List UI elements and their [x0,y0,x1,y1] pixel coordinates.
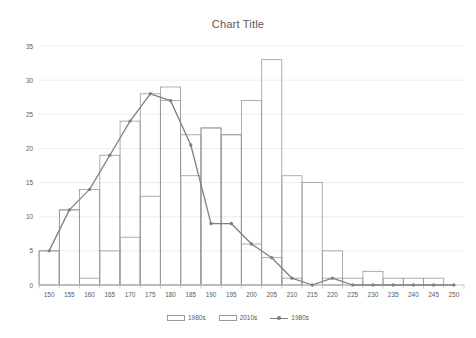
bar-1980s-175 [140,196,160,285]
bar-1980s-160 [80,278,100,285]
line-marker-235 [391,283,394,286]
x-axis-tick-label: 200 [246,291,257,298]
x-axis-tick-label: 170 [125,291,136,298]
bar-2010s-150 [39,251,59,285]
line-marker-165 [108,154,111,157]
y-axis-tick-label: 0 [29,282,33,289]
line-marker-175 [149,92,152,95]
line-marker-245 [432,283,435,286]
x-axis-tick-label: 230 [368,291,379,298]
chart-legend: 1980s 2010s 1980s [0,314,476,322]
x-axis-tick-label: 160 [84,291,95,298]
line-marker-215 [311,283,314,286]
bar-2010s-190 [201,128,221,285]
line-marker-150 [47,249,50,252]
bar-1980s-200 [241,244,261,285]
line-marker-190 [209,222,212,225]
y-axis-tick-label: 10 [26,213,34,220]
bar-2010s-195 [221,135,241,285]
line-marker-160 [88,188,91,191]
bar-2010s-230 [363,271,383,285]
line-series-1980s [49,94,454,285]
legend-item-1980s-bar[interactable]: 1980s [167,314,206,322]
legend-item-label: 1980s [291,314,309,322]
y-axis-tick-label: 25 [26,111,34,118]
bar-2010s-200 [241,101,261,285]
bar-2010s-185 [181,135,201,285]
bar-2010s-210 [282,176,302,285]
bar-1980s-195 [221,135,241,285]
chart-plot-area: 0510152025303515015516016517017518018519… [0,0,476,338]
y-axis-tick-label: 30 [26,77,34,84]
bar-1980s-155 [59,210,79,285]
bar-2010s-170 [120,121,140,285]
line-marker-225 [351,283,354,286]
x-axis-tick-label: 235 [388,291,399,298]
legend-item-label: 2010s [240,314,258,322]
x-axis-tick-label: 175 [145,291,156,298]
bar-1980s-190 [201,128,221,285]
x-axis-tick-label: 225 [347,291,358,298]
x-axis-tick-label: 220 [327,291,338,298]
x-axis-tick-label: 150 [44,291,55,298]
legend-swatch-icon [219,315,237,321]
line-marker-210 [290,276,293,279]
x-axis-tick-label: 250 [449,291,460,298]
x-axis-tick-label: 190 [206,291,217,298]
line-marker-180 [169,99,172,102]
legend-line-marker-icon [270,315,288,321]
x-axis-tick-label: 240 [408,291,419,298]
bar-1980s-180 [161,101,181,285]
y-axis-tick-label: 35 [26,43,34,50]
bar-2010s-160 [80,189,100,285]
bar-2010s-175 [140,94,160,285]
line-marker-240 [412,283,415,286]
line-marker-170 [128,119,131,122]
line-marker-155 [68,208,71,211]
line-marker-220 [331,276,334,279]
y-axis-tick-label: 15 [26,179,34,186]
line-marker-230 [371,283,374,286]
line-marker-250 [452,283,455,286]
x-axis-tick-label: 210 [287,291,298,298]
bar-1980s-185 [181,176,201,285]
line-marker-205 [270,256,273,259]
bar-1980s-165 [100,251,120,285]
y-axis-tick-label: 5 [29,247,33,254]
x-axis-tick-label: 245 [428,291,439,298]
bar-1980s-170 [120,237,140,285]
line-marker-185 [189,143,192,146]
x-axis-tick-label: 165 [104,291,115,298]
x-axis-tick-label: 185 [185,291,196,298]
x-axis-tick-label: 205 [266,291,277,298]
bar-2010s-215 [302,183,322,285]
x-axis-tick-label: 195 [226,291,237,298]
x-axis-tick-label: 215 [307,291,318,298]
legend-item-2010s-bar[interactable]: 2010s [219,314,258,322]
bar-1980s-205 [262,258,282,285]
bar-2010s-155 [59,210,79,285]
y-axis-tick-label: 20 [26,145,34,152]
x-axis-tick-label: 180 [165,291,176,298]
legend-item-label: 1980s [188,314,206,322]
line-marker-200 [250,242,253,245]
x-axis-tick-label: 155 [64,291,75,298]
bar-1980s-150 [39,251,59,285]
chart-container: Chart Title 0510152025303515015516016517… [0,0,476,338]
legend-item-1980s-line[interactable]: 1980s [270,314,309,322]
line-marker-195 [230,222,233,225]
legend-swatch-icon [167,315,185,321]
bar-2010s-165 [100,155,120,285]
